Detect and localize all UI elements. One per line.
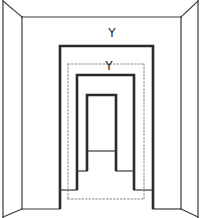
middle-frame — [77, 75, 134, 190]
label-y-near: Y — [108, 27, 115, 39]
label-y-far: Y — [105, 60, 112, 72]
top-left-diagonal — [3, 1, 22, 17]
corridor-illusion-diagram — [0, 0, 201, 218]
top-right-diagonal — [181, 1, 198, 17]
far-frame — [87, 95, 116, 171]
dotted-comparison-rect — [68, 64, 144, 199]
bottom-right-diagonal — [181, 209, 198, 217]
bottom-left-diagonal — [3, 209, 22, 217]
room-walls — [3, 0, 198, 218]
